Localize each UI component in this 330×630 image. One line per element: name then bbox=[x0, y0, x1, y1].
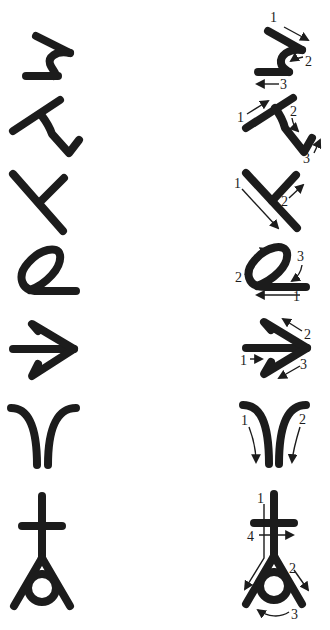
stroke-arrow-1 bbox=[249, 427, 256, 462]
arrow-glyph-stroke-order: 1 2 3 bbox=[240, 319, 311, 378]
stroke-arrow-2 bbox=[291, 57, 303, 61]
stroke-order-diagram: 1 2 3 1 2 3 1 2 1 2 3 bbox=[0, 0, 330, 630]
stroke-arrow-3 bbox=[292, 265, 302, 281]
stroke-number: 1 bbox=[270, 10, 277, 25]
stroke-arrow-3 bbox=[258, 610, 289, 616]
stroke-number: 1 bbox=[240, 353, 247, 368]
stroke-number: 2 bbox=[290, 104, 297, 119]
stroke-arrow-2 bbox=[289, 185, 303, 198]
hook-glyph-stroke-order: 1 2 3 bbox=[257, 10, 312, 92]
stroke-number: 2 bbox=[281, 194, 288, 209]
cross-ring-glyph-plain bbox=[14, 496, 70, 606]
stroke-number: 3 bbox=[303, 151, 310, 166]
t-glyph-stroke-order: 1 2 bbox=[234, 173, 303, 228]
stroke-number: 2 bbox=[304, 327, 311, 342]
stroke-arrow-3 bbox=[314, 140, 320, 153]
hook-glyph-plain bbox=[26, 36, 70, 76]
stroke-number: 2 bbox=[299, 412, 306, 427]
loop-glyph-plain bbox=[22, 249, 76, 291]
stroke-arrow-2 bbox=[292, 427, 300, 462]
stroke-number: 1 bbox=[257, 491, 264, 506]
arches-glyph-stroke-order: 1 2 bbox=[241, 405, 306, 464]
stroke-number: 3 bbox=[291, 607, 298, 622]
arches-glyph-plain bbox=[11, 408, 76, 465]
stroke-number: 2 bbox=[305, 54, 312, 69]
t-glyph-plain bbox=[13, 174, 64, 231]
stroke-number: 1 bbox=[293, 289, 300, 304]
stroke-number: 3 bbox=[297, 249, 304, 264]
stroke-number: 1 bbox=[241, 413, 248, 428]
stroke-arrow-2 bbox=[283, 319, 302, 331]
stroke-arrow-2 bbox=[292, 118, 298, 131]
arrow-glyph-plain bbox=[13, 324, 74, 376]
stroke-number: 3 bbox=[300, 357, 307, 372]
cross-ring-glyph-stroke-order: 1 4 2 3 bbox=[245, 491, 308, 622]
stroke-number: 1 bbox=[237, 110, 244, 125]
stroke-number: 2 bbox=[235, 270, 242, 285]
stroke-number: 1 bbox=[234, 176, 241, 191]
stroke-number: 4 bbox=[247, 529, 254, 544]
stroke-number: 3 bbox=[280, 77, 287, 92]
loop-glyph-stroke-order: 1 2 3 bbox=[235, 247, 306, 304]
bent-glyph-stroke-order: 1 2 3 bbox=[237, 98, 320, 166]
stroke-number: 2 bbox=[289, 561, 296, 576]
bent-glyph-plain bbox=[13, 100, 79, 153]
stroke-arrow-3 bbox=[279, 366, 300, 378]
